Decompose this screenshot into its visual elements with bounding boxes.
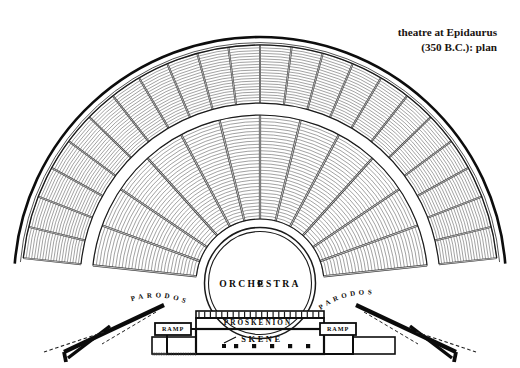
caption-line-1: theatre at Epidaurus	[398, 26, 498, 38]
caption-line-2: (350 B.C.): plan	[421, 41, 498, 54]
proskenion-label: PROSKENION	[224, 319, 292, 327]
orchestra-label: ORCHESTRA	[219, 278, 300, 289]
skene-interior-column	[222, 344, 226, 348]
skene-interior-column	[288, 344, 292, 348]
skene-label: SKENE	[241, 335, 282, 344]
skene-interior-column	[234, 344, 238, 348]
ramp-left-label: RAMP	[162, 325, 184, 332]
analemma-end-return	[454, 352, 456, 362]
skene-interior-column	[252, 344, 256, 348]
proskenion-colonnade	[196, 311, 324, 318]
skene-interior-column	[306, 344, 310, 348]
skene-interior-column	[270, 344, 274, 348]
theatre-plan-figure: ORCHESTRA PROSKENION SKENE RAMP RAMP PAR…	[0, 0, 520, 368]
analemma-end-return	[64, 352, 66, 362]
ramp-right-label: RAMP	[327, 325, 349, 332]
theatre-plan-drawing: ORCHESTRA PROSKENION SKENE RAMP RAMP PAR…	[0, 0, 520, 368]
